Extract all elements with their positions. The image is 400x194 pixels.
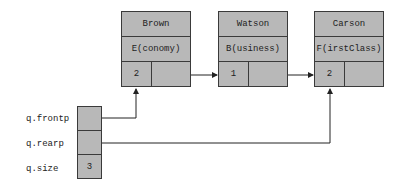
node-class: E(conomy): [122, 37, 190, 62]
node-brown: Brown E(conomy) 2: [121, 11, 191, 87]
node-null-pointer: [345, 62, 383, 86]
size-label: q.size: [26, 156, 58, 181]
node-watson: Watson B(usiness) 1: [218, 11, 288, 87]
node-link-row: 2: [122, 62, 190, 86]
rearp-label: q.rearp: [26, 131, 64, 156]
node-count: 2: [122, 62, 152, 86]
frontp-label: q.frontp: [26, 106, 69, 131]
node-count: 2: [315, 62, 345, 86]
node-carson: Carson F(irstClass) 2: [314, 11, 384, 87]
node-class: F(irstClass): [315, 37, 383, 62]
node-next-pointer: [152, 62, 190, 86]
arrow-rearp-to-carson: [90, 89, 330, 143]
node-next-pointer: [249, 62, 287, 86]
node-count: 1: [219, 62, 249, 86]
frontp-cell: [77, 106, 102, 131]
node-class: B(usiness): [219, 37, 287, 62]
node-name: Brown: [122, 12, 190, 37]
node-link-row: 2: [315, 62, 383, 86]
size-cell: 3: [77, 154, 102, 179]
node-link-row: 1: [219, 62, 287, 86]
rearp-cell: [77, 130, 102, 155]
node-name: Watson: [219, 12, 287, 37]
node-name: Carson: [315, 12, 383, 37]
